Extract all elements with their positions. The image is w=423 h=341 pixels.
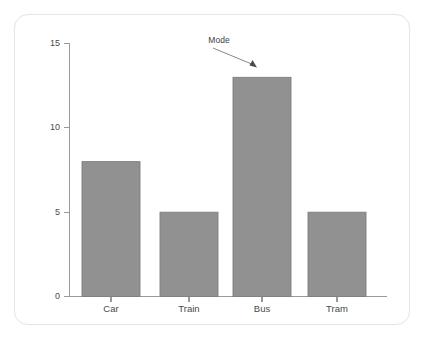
x-axis-labels: Car Train Bus Tram (103, 303, 348, 314)
x-axis-ticks (111, 297, 337, 302)
y-axis-ticks: 0 5 10 15 (50, 38, 70, 301)
bar-bus[interactable] (233, 77, 291, 296)
bar-chart-svg: 0 5 10 15 (15, 15, 411, 326)
chart-card: 0 5 10 15 (14, 14, 410, 325)
bar-car[interactable] (82, 162, 140, 297)
y-tick-label-10: 10 (50, 122, 60, 132)
y-tick-label-5: 5 (55, 207, 60, 217)
x-label-train: Train (178, 303, 199, 314)
annotation-leader-line (213, 48, 254, 65)
bars-group (82, 77, 366, 296)
x-label-bus: Bus (254, 303, 271, 314)
x-label-tram: Tram (326, 303, 348, 314)
annotation-mode: Mode (208, 35, 257, 68)
y-tick-label-15: 15 (50, 38, 60, 48)
y-tick-label-0: 0 (55, 291, 60, 301)
plot-area: 0 5 10 15 (15, 15, 411, 326)
bar-train[interactable] (160, 212, 218, 296)
annotation-arrowhead-icon (250, 60, 258, 68)
x-label-car: Car (103, 303, 118, 314)
bar-tram[interactable] (308, 212, 366, 296)
annotation-label-mode: Mode (208, 35, 230, 45)
